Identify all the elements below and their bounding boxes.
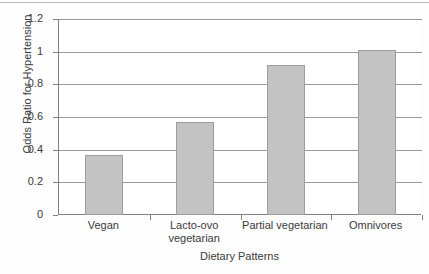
gridline [59,19,422,20]
page-top-rule [0,2,429,3]
x-axis-tick-label-line: Partial vegetarian [240,219,331,232]
x-axis-tick-label: Omnivores [330,219,421,232]
x-axis-tick-label-line: Vegan [58,219,149,232]
y-axis-tick-label: 0 [0,209,52,220]
chart-figure: 00.20.40.60.811.2 VeganLacto-ovovegetari… [0,0,429,274]
y-axis-label: Odds Ratio for Hypertension [21,0,33,184]
x-axis-label: Dietary Patterns [58,250,421,262]
bar [267,65,305,215]
bar [358,50,396,215]
bar [176,122,214,215]
y-axis-tick-mark [53,215,58,216]
x-axis-tick-label-line: vegetarian [149,232,240,245]
x-axis-tick-label-line: Lacto-ovo [149,219,240,232]
x-axis-tick-label: Lacto-ovovegetarian [149,219,240,245]
x-axis-tick-label: Vegan [58,219,149,232]
x-axis-tick-mark [422,215,423,220]
x-axis-tick-label: Partial vegetarian [240,219,331,232]
x-axis-tick-label-line: Omnivores [330,219,421,232]
plot-area [58,19,421,215]
bar [85,155,123,215]
